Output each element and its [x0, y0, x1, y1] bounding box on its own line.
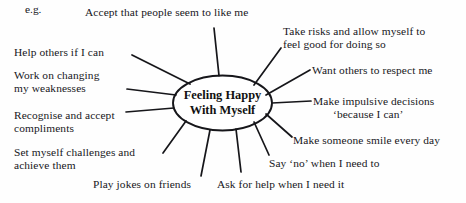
- spoke-help-others: [132, 55, 190, 84]
- spoke-accept-liked: [214, 28, 219, 76]
- label-ask-for-help: Ask for help when I need it: [217, 178, 344, 191]
- label-recognise-line2: compliments: [14, 122, 74, 135]
- spoke-work-changing: [127, 89, 176, 95]
- spoke-ask-for-help: [236, 129, 241, 172]
- spoke-want-respect: [266, 70, 310, 95]
- label-impulsive-line1: Make impulsive decisions: [313, 95, 434, 108]
- sunburst-diagram-canvas: e.g. Feeling Happy With Myself Accept th…: [0, 0, 466, 203]
- label-work-changing-line1: Work on changing: [14, 69, 99, 82]
- label-recognise-line1: Recognise and accept: [14, 109, 115, 122]
- spoke-say-no: [254, 122, 269, 155]
- label-take-risks-line1: Take risks and allow myself to: [283, 25, 425, 38]
- spoke-take-risks: [254, 48, 281, 85]
- spoke-recognise: [126, 108, 174, 112]
- spoke-impulsive: [272, 101, 311, 103]
- spoke-make-smile: [266, 114, 292, 137]
- label-help-others: Help others if I can: [14, 46, 104, 59]
- label-set-challenges-line2: achieve them: [14, 159, 76, 172]
- label-accept-liked: Accept that people seem to like me: [85, 6, 248, 19]
- label-want-respect: Want others to respect me: [312, 64, 433, 77]
- label-take-risks-line2: feel good for doing so: [283, 38, 386, 51]
- label-impulsive-line2: ‘because I can’: [333, 108, 403, 121]
- spoke-set-challenges: [163, 121, 186, 153]
- label-work-changing-line2: my weaknesses: [14, 82, 86, 95]
- label-play-jokes: Play jokes on friends: [93, 178, 191, 191]
- spoke-play-jokes: [201, 130, 210, 176]
- label-set-challenges-line1: Set myself challenges and: [14, 146, 135, 159]
- label-make-smile: Make someone smile every day: [293, 134, 440, 147]
- label-say-no: Say ‘no’ when I need to: [269, 157, 380, 170]
